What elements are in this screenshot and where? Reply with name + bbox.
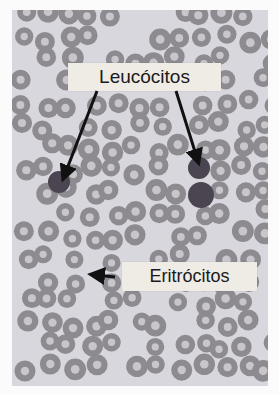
eritrocitos-label: Eritrócitos (122, 262, 257, 291)
leukocyte-cell (188, 157, 210, 179)
eritrocitos-label-text: Eritrócitos (149, 266, 229, 287)
leukocyte-cell (188, 182, 214, 208)
blood-smear-image: Leucócitos Eritrócitos (12, 10, 268, 386)
leucocitos-label: Leucócitos (68, 63, 221, 91)
leukocyte-cell (48, 171, 70, 193)
leucocitos-label-text: Leucócitos (99, 66, 190, 88)
